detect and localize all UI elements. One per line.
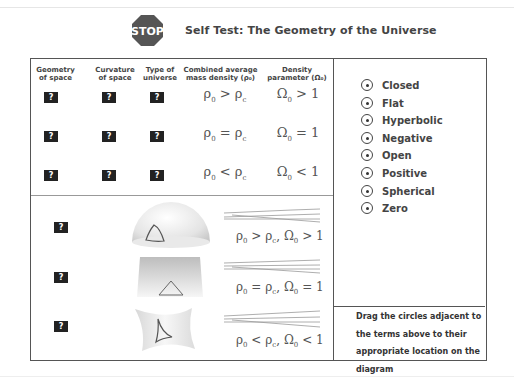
density-formula-3: ρ0 < ρc (195, 164, 255, 182)
header-line: Curvature (90, 66, 140, 74)
operator: = (296, 125, 307, 140)
drag-circle-icon[interactable] (361, 202, 373, 214)
instructions-divider (334, 306, 485, 307)
omega-symbol: Ω (277, 86, 288, 101)
rho-symbol: ρ (235, 125, 243, 140)
subscript: c (243, 174, 247, 182)
subscript: 0 (287, 174, 291, 182)
value: 1 (316, 280, 324, 294)
omega-symbol: Ω (284, 333, 294, 347)
expansion-lines-open (222, 308, 322, 328)
operator: < (220, 164, 231, 179)
value: 1 (311, 125, 319, 140)
column-header-mass-density: Combined average mass density (ρ₀) (183, 66, 258, 82)
subscript: 0 (287, 96, 291, 104)
drag-circle-icon[interactable] (361, 132, 373, 144)
operator: = (302, 280, 312, 294)
flat-geometry-illustration (135, 255, 205, 300)
omega-symbol: Ω (277, 125, 288, 140)
subscript: 0 (243, 237, 247, 245)
option-label: Open (382, 150, 412, 161)
drag-circle-icon[interactable] (361, 97, 373, 109)
omega-symbol: Ω (277, 164, 288, 179)
subscript: 0 (211, 174, 215, 182)
header-line: parameter (Ω₀) (262, 74, 332, 82)
header-line: Type of (140, 66, 180, 74)
comma: , (276, 280, 280, 294)
omega-formula-2: Ω0 = 1 (268, 125, 328, 143)
option-flat[interactable]: Flat (361, 96, 404, 110)
drop-target-type-1[interactable]: ? (150, 92, 164, 103)
svg-text:STOP: STOP (131, 25, 164, 38)
operator: = (220, 125, 231, 140)
density-formula-2: ρ0 = ρc (195, 125, 255, 143)
drag-circle-icon[interactable] (361, 167, 373, 179)
expansion-lines-flat (222, 255, 322, 275)
operator: > (302, 229, 312, 243)
option-label: Flat (382, 98, 404, 109)
drag-circle-icon[interactable] (361, 185, 373, 197)
rho-symbol: ρ (236, 229, 243, 243)
operator: < (302, 333, 312, 347)
subscript: 0 (211, 135, 215, 143)
operator: = (251, 280, 261, 294)
drag-circle-icon[interactable] (361, 149, 373, 161)
diagram-formula-flat: ρ0 = ρc, Ω0 = 1 (236, 280, 324, 296)
operator: < (296, 164, 307, 179)
value: 1 (311, 86, 319, 101)
rho-symbol: ρ (235, 86, 243, 101)
omega-formula-3: Ω0 < 1 (268, 164, 328, 182)
subscript: 0 (243, 288, 247, 296)
column-header-type: Type of universe (140, 66, 180, 82)
header-line: Density (262, 66, 332, 74)
header-line: universe (140, 74, 180, 82)
drop-target-geometry-3[interactable]: ? (44, 170, 58, 181)
drop-target-curvature-3[interactable]: ? (102, 170, 116, 181)
subscript: 0 (287, 135, 291, 143)
section-divider (31, 195, 333, 196)
rho-symbol: ρ (236, 333, 243, 347)
saddle-geometry-illustration (132, 305, 207, 353)
option-label: Positive (382, 168, 427, 179)
header-line: mass density (ρ₀) (183, 74, 258, 82)
header-line: of space (90, 74, 140, 82)
top-divider (0, 7, 514, 8)
comma: , (276, 333, 280, 347)
option-zero[interactable]: Zero (361, 201, 408, 215)
option-hyperbolic[interactable]: Hyperbolic (361, 113, 443, 127)
option-closed[interactable]: Closed (361, 78, 420, 92)
drop-target-geometry-2[interactable]: ? (44, 131, 58, 142)
page-title: Self Test: The Geometry of the Universe (185, 24, 437, 37)
option-negative[interactable]: Negative (361, 131, 433, 145)
option-label: Closed (382, 80, 420, 91)
stop-sign-icon: STOP (131, 14, 164, 47)
instructions-text: Drag the circles adjacent to the terms a… (356, 308, 486, 378)
operator: > (251, 229, 261, 243)
option-positive[interactable]: Positive (361, 166, 427, 180)
density-formula-1: ρ0 > ρc (195, 86, 255, 104)
drop-target-curvature-2[interactable]: ? (102, 131, 116, 142)
sphere-geometry-illustration (130, 200, 212, 250)
drop-target-type-3[interactable]: ? (150, 170, 164, 181)
omega-formula-1: Ω0 > 1 (268, 86, 328, 104)
option-spherical[interactable]: Spherical (361, 184, 435, 198)
value: 1 (316, 333, 324, 347)
drop-target-diagram-2[interactable]: ? (54, 272, 68, 283)
comma: , (276, 229, 280, 243)
column-header-density-parameter: Density parameter (Ω₀) (262, 66, 332, 82)
rho-symbol: ρ (235, 164, 243, 179)
subscript: 0 (211, 96, 215, 104)
drop-target-type-2[interactable]: ? (150, 131, 164, 142)
drag-circle-icon[interactable] (361, 79, 373, 91)
drop-target-diagram-3[interactable]: ? (54, 321, 68, 332)
option-label: Negative (382, 133, 433, 144)
drop-target-curvature-1[interactable]: ? (102, 92, 116, 103)
operator: > (220, 86, 231, 101)
diagram-formula-closed: ρ0 > ρc, Ω0 > 1 (236, 229, 324, 245)
option-open[interactable]: Open (361, 148, 412, 162)
drop-target-geometry-1[interactable]: ? (44, 92, 58, 103)
omega-symbol: Ω (284, 280, 294, 294)
rho-symbol: ρ (236, 280, 243, 294)
drop-target-diagram-1[interactable]: ? (54, 222, 68, 233)
drag-circle-icon[interactable] (361, 114, 373, 126)
